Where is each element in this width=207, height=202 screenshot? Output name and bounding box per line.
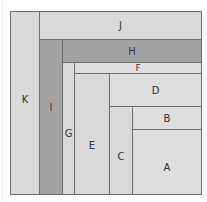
region-e-label: E [89,140,95,151]
diagram-frame: K J I H G F E D C B A [10,11,202,195]
region-f: F [74,63,201,74]
region-j-label: J [119,20,122,31]
region-i-label: I [50,102,53,113]
region-g-label: G [65,128,73,139]
region-b-label: B [164,113,171,124]
region-a: A [132,130,201,194]
region-g: G [62,63,74,194]
region-c: C [109,107,132,194]
region-b: B [132,107,201,130]
region-h-label: H [128,46,136,57]
region-h: H [62,40,201,63]
page-edge-line [2,0,3,202]
region-d-label: D [152,85,160,96]
region-j: J [39,12,201,40]
region-d: D [109,74,201,107]
region-a-label: A [164,162,171,173]
region-c-label: C [118,151,125,162]
region-k-label: K [22,94,29,105]
region-f-label: F [135,63,140,73]
region-i: I [39,40,62,194]
region-k: K [11,12,39,194]
region-e: E [74,74,109,194]
